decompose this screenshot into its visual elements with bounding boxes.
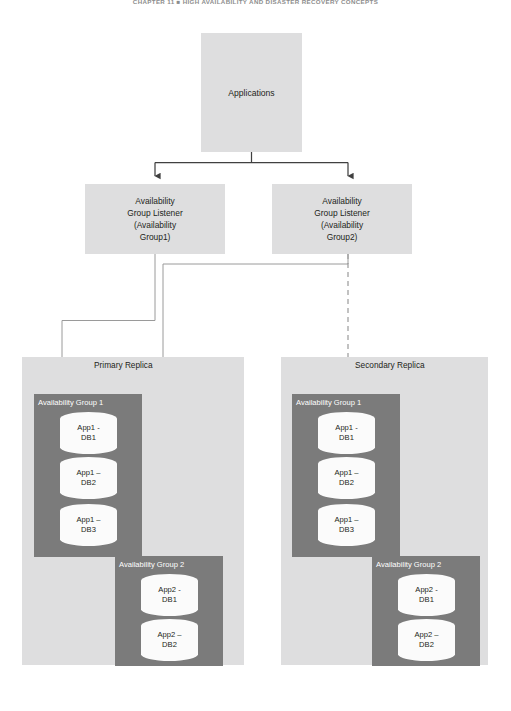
listener-1-line3: (Availability	[134, 219, 176, 231]
listener-1-line1: Availability	[135, 195, 174, 207]
database-cylinder: App2 - DB1	[398, 574, 455, 616]
primary-replica-label: Primary Replica	[94, 360, 153, 370]
listener-2-line2: Group Listener	[314, 207, 369, 219]
availability-group-2-secondary: Availability Group 2 App2 - DB1 App2 – D…	[372, 556, 480, 666]
db-line2: DB3	[81, 525, 96, 535]
availability-group-listener-2: Availability Group Listener (Availabilit…	[272, 184, 412, 254]
db-line2: DB2	[339, 478, 354, 488]
db-line2: DB1	[81, 433, 96, 443]
listener-1-line2: Group Listener	[127, 207, 182, 219]
availability-group-listener-1: Availability Group Listener (Availabilit…	[85, 184, 225, 254]
db-line2: DB1	[339, 433, 354, 443]
db-line2: DB2	[162, 640, 177, 650]
db-line1: App1 –	[334, 468, 358, 478]
listener-2-line4: Group2)	[327, 231, 358, 243]
database-cylinder: App1 - DB1	[60, 412, 117, 454]
running-head: CHAPTER 11 ■ HIGH AVAILABILITY AND DISAS…	[0, 0, 511, 6]
ag2-secondary-title: Availability Group 2	[372, 559, 480, 570]
database-cylinder: App2 - DB1	[141, 574, 198, 616]
diagram-page: CHAPTER 11 ■ HIGH AVAILABILITY AND DISAS…	[0, 0, 511, 711]
listener-2-line3: (Availability	[321, 219, 363, 231]
db-line2: DB2	[419, 640, 434, 650]
applications-label: Applications	[228, 88, 274, 98]
listener-1-line4: Group1)	[140, 231, 171, 243]
availability-group-1-secondary: Availability Group 1 App1 - DB1 App1 – D…	[292, 394, 400, 557]
database-cylinder: App1 – DB3	[318, 504, 375, 546]
db-line1: App2 -	[415, 585, 437, 595]
db-line2: DB2	[81, 478, 96, 488]
db-line2: DB1	[162, 595, 177, 605]
database-cylinder: App2 – DB2	[398, 619, 455, 661]
db-line2: DB1	[419, 595, 434, 605]
db-line1: App1 –	[334, 515, 358, 525]
ag2-primary-title: Availability Group 2	[115, 559, 223, 570]
listener-2-line1: Availability	[322, 195, 361, 207]
connector-applications-branch	[155, 152, 348, 176]
db-line1: App2 -	[158, 585, 180, 595]
applications-box: Applications	[201, 33, 302, 152]
db-line1: App2 –	[414, 630, 438, 640]
database-cylinder: App1 – DB2	[60, 457, 117, 499]
db-line1: App2 –	[157, 630, 181, 640]
database-cylinder: App1 - DB1	[318, 412, 375, 454]
ag1-primary-title: Availability Group 1	[34, 397, 142, 408]
secondary-replica-label: Secondary Replica	[355, 360, 425, 370]
db-line1: App1 –	[76, 468, 100, 478]
availability-group-2-primary: Availability Group 2 App2 - DB1 App2 – D…	[115, 556, 223, 666]
database-cylinder: App1 – DB3	[60, 504, 117, 546]
database-cylinder: App1 – DB2	[318, 457, 375, 499]
database-cylinder: App2 – DB2	[141, 619, 198, 661]
db-line1: App1 –	[76, 515, 100, 525]
db-line2: DB3	[339, 525, 354, 535]
availability-group-1-primary: Availability Group 1 App1 - DB1 App1 – D…	[34, 394, 142, 557]
db-line1: App1 -	[77, 423, 99, 433]
ag1-secondary-title: Availability Group 1	[292, 397, 400, 408]
db-line1: App1 -	[335, 423, 357, 433]
